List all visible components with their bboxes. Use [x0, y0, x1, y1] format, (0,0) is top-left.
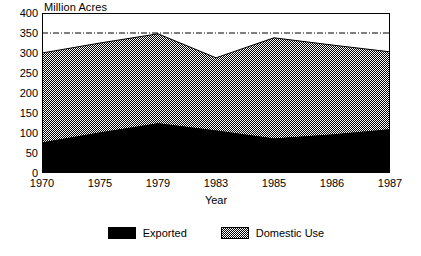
x-tick-label: 1975 — [88, 178, 112, 189]
x-axis-title: Year — [205, 194, 227, 206]
y-tick-label: 250 — [4, 68, 38, 79]
legend-swatch-exported-icon — [108, 227, 136, 239]
y-tick-label: 150 — [4, 108, 38, 119]
y-tick-label: 50 — [4, 148, 38, 159]
legend-item-domestic-use: Domestic Use — [221, 227, 324, 239]
x-tick-label: 1986 — [320, 178, 344, 189]
y-axis-title: Million Acres — [44, 1, 107, 13]
y-tick-label: 100 — [4, 128, 38, 139]
legend-swatch-domestic-use-icon — [221, 227, 249, 239]
x-tick-label: 1979 — [146, 178, 170, 189]
x-tick-label: 1983 — [204, 178, 228, 189]
stacked-area-chart: Million Acres 400 350 300 250 200 150 10… — [0, 0, 421, 256]
y-tick-label: 400 — [4, 8, 38, 19]
y-tick-label: 200 — [4, 88, 38, 99]
y-tick-label: 300 — [4, 48, 38, 59]
plot-svg — [42, 13, 390, 173]
x-tick-label: 1970 — [30, 178, 54, 189]
y-axis-tick-labels: 400 350 300 250 200 150 100 50 0 — [0, 0, 38, 200]
y-tick-label: 350 — [4, 28, 38, 39]
legend-label-domestic-use: Domestic Use — [256, 228, 324, 239]
x-tick-label: 1987 — [378, 178, 402, 189]
x-tick-label: 1985 — [262, 178, 286, 189]
legend-item-exported: Exported — [108, 227, 187, 239]
chart-legend: Exported Domestic Use — [42, 220, 390, 246]
plot-area — [42, 13, 390, 173]
legend-label-exported: Exported — [143, 228, 187, 239]
